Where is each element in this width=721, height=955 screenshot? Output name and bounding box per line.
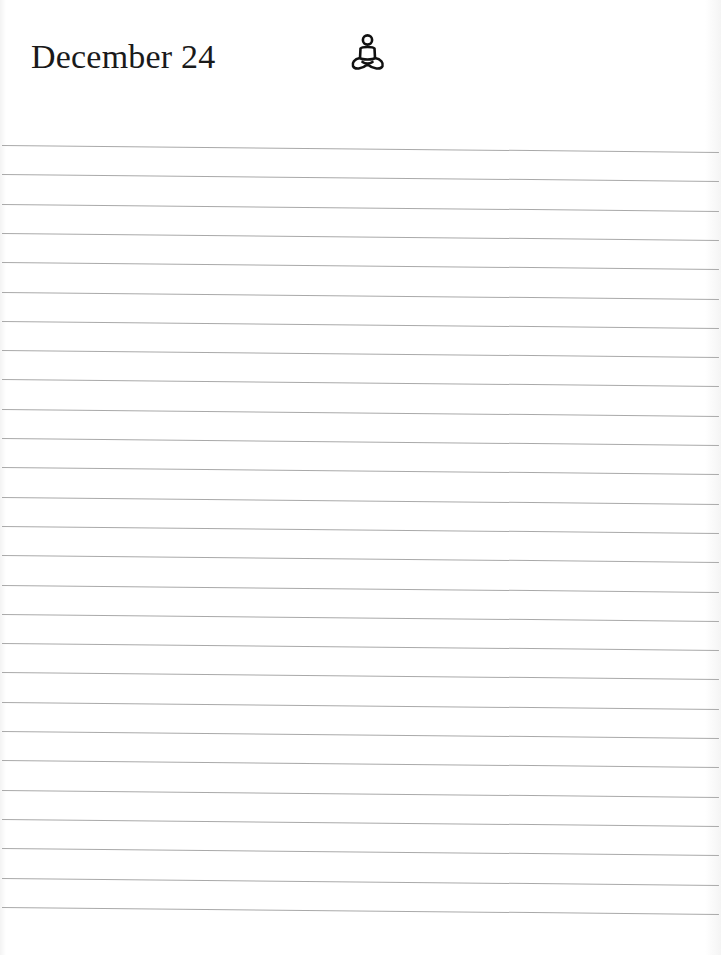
ruled-line xyxy=(2,204,719,212)
ruled-line xyxy=(2,262,719,270)
journal-page: December 24 xyxy=(0,0,721,955)
ruled-line xyxy=(2,878,719,886)
ruled-line xyxy=(2,321,719,329)
ruled-line xyxy=(2,174,719,182)
ruled-line xyxy=(2,526,719,534)
ruled-lines xyxy=(0,0,721,955)
ruled-line xyxy=(2,145,719,153)
ruled-line xyxy=(2,643,719,651)
ruled-line xyxy=(2,467,719,475)
ruled-line xyxy=(2,350,719,358)
ruled-line xyxy=(2,907,719,915)
ruled-line xyxy=(2,409,719,417)
ruled-line xyxy=(2,848,719,856)
ruled-line xyxy=(2,760,719,768)
ruled-line xyxy=(2,819,719,827)
ruled-line xyxy=(2,379,719,387)
ruled-line xyxy=(2,497,719,505)
ruled-line xyxy=(2,233,719,241)
ruled-line xyxy=(2,438,719,446)
ruled-line xyxy=(2,292,719,300)
ruled-line xyxy=(2,614,719,622)
ruled-line xyxy=(2,702,719,710)
ruled-line xyxy=(2,585,719,593)
ruled-line xyxy=(2,672,719,680)
ruled-line xyxy=(2,555,719,563)
ruled-line xyxy=(2,790,719,798)
ruled-line xyxy=(2,731,719,739)
